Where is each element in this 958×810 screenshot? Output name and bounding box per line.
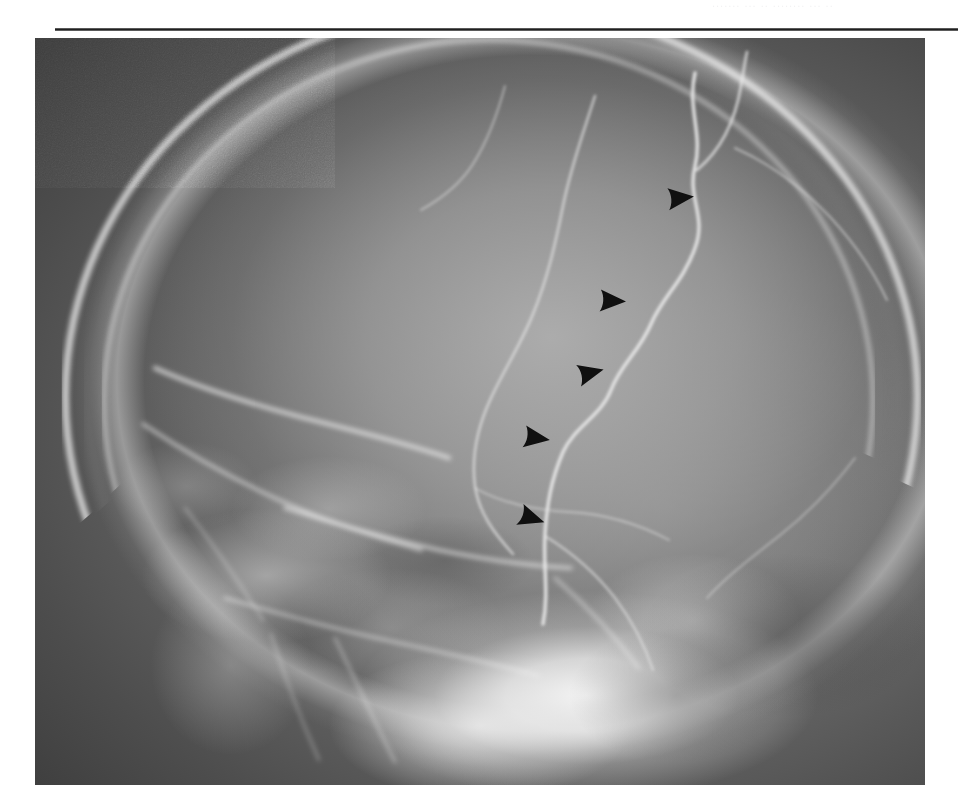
film-grain-overlay [35,38,335,188]
arrowhead-marker-4 [519,424,552,452]
arrowhead-marker-1 [664,184,696,211]
header-text-remnant: ....... ... .. ........ ... .. [712,0,944,7]
horizontal-rule-divider [55,28,958,31]
arrowhead-marker-2 [597,288,628,313]
radiograph-image [35,38,925,785]
page-root: ....... ... .. ........ ... .. [0,0,958,810]
